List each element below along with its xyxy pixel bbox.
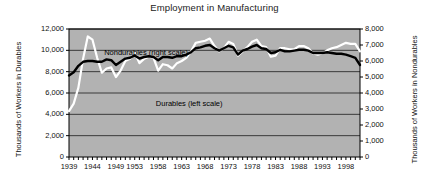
y-tick-label-right: 3,000 bbox=[365, 104, 405, 113]
y-tick-label-left: 4,000 bbox=[16, 109, 64, 118]
y-tick-label-right: 8,000 bbox=[365, 24, 405, 33]
y-tick-label-right: 1,000 bbox=[365, 136, 405, 145]
series-annotation-nondurables: Nondurables (right scale) bbox=[104, 48, 188, 57]
y-tick-label-left: 0 bbox=[16, 152, 64, 161]
y-tick-label-right: 2,000 bbox=[365, 120, 405, 129]
y-tick-label-left: 12,000 bbox=[16, 24, 64, 33]
y-tick-label-right: 6,000 bbox=[365, 56, 405, 65]
y-tick-label-right: 5,000 bbox=[365, 72, 405, 81]
series-annotation-durables: Durables (left scale) bbox=[156, 99, 223, 108]
y-tick-label-right: 0 bbox=[365, 152, 405, 161]
y-tick-label-right: 7,000 bbox=[365, 40, 405, 49]
x-tick-label: 1998 bbox=[332, 162, 360, 171]
y-tick-label-left: 2,000 bbox=[16, 131, 64, 140]
y-tick-label-left: 10,000 bbox=[16, 45, 64, 54]
y-tick-label-right: 4,000 bbox=[365, 88, 405, 97]
y-tick-label-left: 6,000 bbox=[16, 88, 64, 97]
employment-manufacturing-chart: Employment in Manufacturing Thousands of… bbox=[0, 0, 429, 189]
y-tick-label-left: 8,000 bbox=[16, 67, 64, 76]
